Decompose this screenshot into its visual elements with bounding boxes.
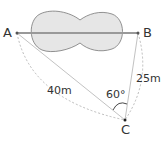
label-c: C xyxy=(121,122,130,137)
label-bc-length: 25m xyxy=(136,72,161,85)
label-b: B xyxy=(143,25,152,40)
angle-arc-c xyxy=(113,103,127,110)
geometry-diagram xyxy=(0,0,163,141)
pond-shape xyxy=(31,11,122,51)
label-ac-length: 40m xyxy=(47,84,72,97)
label-angle-c: 60° xyxy=(106,88,126,101)
label-a: A xyxy=(3,25,12,40)
point-a xyxy=(16,32,19,35)
point-b xyxy=(137,32,140,35)
